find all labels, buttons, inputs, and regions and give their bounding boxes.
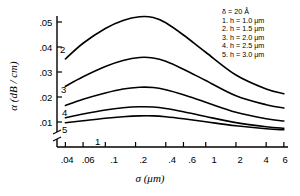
xtick-label-02: .2 <box>134 154 152 165</box>
ytick-label-05: .05 <box>18 17 52 28</box>
xtick-label-1: 1 <box>206 154 222 165</box>
xtick-label-2: 2 <box>232 154 248 165</box>
xtick-label-006: .06 <box>77 154 99 165</box>
xtick-label-01: .1 <box>105 154 123 165</box>
curve-label-4: 4 <box>62 107 67 118</box>
ytick-label-01: .01 <box>18 117 52 128</box>
x-axis-title: σ (μm) <box>95 172 205 184</box>
xtick-label-6: 6 <box>277 154 293 165</box>
series-line-4 <box>65 87 283 121</box>
xtick-label-004: .04 <box>56 154 78 165</box>
legend: δ = 20 Å 1. h = 1.0 μm 2. h = 1.5 μm 3. … <box>222 8 264 60</box>
ytick-label-02: .02 <box>18 92 52 103</box>
y-axis-title: α (dB / cm) <box>7 40 19 132</box>
ytick-label-04: .04 <box>18 42 52 53</box>
xtick-label-04: .4 <box>163 154 181 165</box>
legend-delta-text: δ = 20 Å <box>222 7 249 16</box>
curve-label-3: 3 <box>61 84 66 95</box>
xtick-label-06: .6 <box>183 154 201 165</box>
curve-label-5: 5 <box>62 124 67 135</box>
xtick-label-4: 4 <box>258 154 274 165</box>
curve-label-2: 2 <box>60 44 65 55</box>
curve-label-1: 1 <box>95 136 100 147</box>
ytick-label-03: .03 <box>18 67 52 78</box>
chart-figure: .05 .04 .03 .02 .01 .04 .06 .1 .2 .4 .6 … <box>0 0 300 196</box>
series-line-1 <box>65 116 283 130</box>
legend-row-5: 5. h = 3.0 μm <box>222 51 264 60</box>
